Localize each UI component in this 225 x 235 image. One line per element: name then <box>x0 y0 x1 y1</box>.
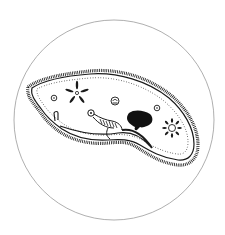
contractile-vacuole-posterior <box>162 118 182 138</box>
paramecium-illustration <box>0 0 225 235</box>
paramecium-drawing <box>0 0 225 235</box>
